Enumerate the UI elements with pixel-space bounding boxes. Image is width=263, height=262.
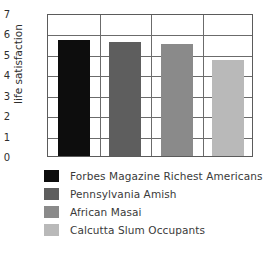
legend-item-label: Calcutta Slum Occupants: [70, 224, 205, 236]
bars-layer: [48, 15, 252, 156]
legend-item: African Masai: [44, 203, 263, 221]
bar: [161, 44, 193, 156]
y-axis-tick-label: 6: [0, 29, 10, 40]
y-axis-tick-label: 1: [0, 131, 10, 142]
legend-item: Forbes Magazine Richest Americans: [44, 167, 263, 185]
bar: [109, 42, 141, 156]
plot-area: [47, 14, 253, 157]
y-axis-tick-label: 5: [0, 49, 10, 60]
y-axis-tick-label: 2: [0, 111, 10, 122]
legend-item: Pennsylvania Amish: [44, 185, 263, 203]
legend-item: Calcutta Slum Occupants: [44, 221, 263, 239]
legend-item-label: Forbes Magazine Richest Americans: [70, 170, 263, 182]
legend-color-swatch: [44, 206, 59, 218]
y-axis-tick-label: 7: [0, 9, 10, 20]
legend-color-swatch: [44, 224, 59, 236]
bar: [212, 60, 244, 156]
chart-legend: Forbes Magazine Richest AmericansPennsyl…: [44, 167, 263, 239]
y-axis-tick-label: 0: [0, 152, 10, 163]
bar-chart-figure: life satisfaction 76543210 Forbes Magazi…: [0, 0, 263, 262]
legend-color-swatch: [44, 188, 59, 200]
y-axis-tick-label: 4: [0, 70, 10, 81]
bar: [58, 40, 90, 156]
y-axis-tick-label: 3: [0, 90, 10, 101]
chart-title-clipped: [150, 0, 260, 3]
legend-color-swatch: [44, 170, 59, 182]
legend-item-label: African Masai: [70, 206, 142, 218]
legend-item-label: Pennsylvania Amish: [70, 188, 177, 200]
